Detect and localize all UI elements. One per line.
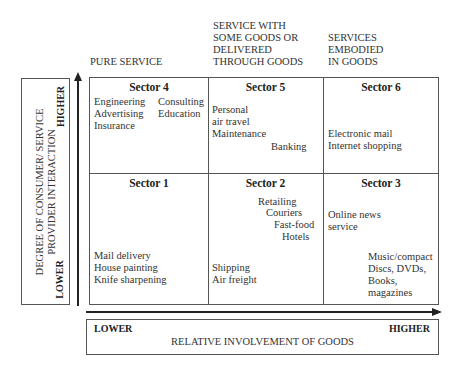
sector-title: Sector 4: [90, 81, 208, 93]
sector-5: Sector 5 Personal air travel Maintenance…: [208, 78, 323, 173]
sector-item: Knife sharpening: [94, 274, 167, 286]
sector-item: Fast-food: [274, 219, 314, 231]
sector-item: Mail delivery: [94, 250, 151, 262]
y-axis-high-label: HIGHER: [55, 86, 66, 127]
header-line: THROUGH GOODS: [213, 56, 303, 68]
column-header-pure-service: PURE SERVICE: [90, 56, 162, 68]
sector-item: Couriers: [266, 207, 302, 219]
sector-item: Internet shopping: [328, 140, 402, 152]
sector-item: magazines: [368, 287, 412, 299]
x-axis-high-label: HIGHER: [389, 323, 430, 334]
header-line: EMBODIED: [328, 44, 383, 56]
y-axis-label-box: DEGREE OF CONSUMER/ SERVICE PROVIDER INT…: [21, 78, 70, 305]
x-axis-label-box: LOWER HIGHER RELATIVE INVOLVEMENT OF GOO…: [86, 319, 439, 355]
sector-item: Banking: [271, 141, 307, 153]
sector-item: service: [328, 221, 358, 233]
sector-2: Sector 2 Retailing Couriers Fast-food Ho…: [208, 174, 323, 305]
sector-item: Electronic mail: [328, 128, 392, 140]
sector-title: Sector 2: [208, 177, 323, 189]
sector-item: Shipping: [212, 262, 250, 274]
sector-title: Sector 6: [323, 81, 439, 93]
sector-item: Air freight: [212, 274, 257, 286]
sector-grid: Sector 4 Engineering Advertising Insuran…: [89, 77, 439, 305]
header-line: IN GOODS: [328, 56, 383, 68]
vertical-arrow-icon: [72, 72, 84, 308]
header-line: SERVICE WITH: [213, 20, 303, 32]
sector-item: Engineering: [94, 96, 145, 108]
sector-item: Personal: [212, 104, 248, 116]
sector-1: Sector 1 Mail delivery House painting Kn…: [90, 174, 208, 305]
sector-item: air travel: [212, 116, 250, 128]
sector-item: Consulting: [158, 96, 204, 108]
y-axis-label-line: DEGREE OF CONSUMER/ SERVICE: [34, 82, 46, 302]
sector-item: Online news: [328, 209, 381, 221]
sector-item: Maintenance: [212, 128, 266, 140]
x-axis-low-label: LOWER: [94, 323, 132, 334]
sector-title: Sector 5: [208, 81, 323, 93]
column-header-service-with-goods: SERVICE WITH SOME GOODS OR DELIVERED THR…: [213, 20, 303, 68]
sector-3: Sector 3 Online news service Music/compa…: [323, 174, 439, 305]
sector-title: Sector 3: [323, 177, 439, 189]
sector-item: House painting: [94, 262, 158, 274]
y-axis-low-label: LOWER: [54, 260, 65, 298]
sector-item: Music/compact: [368, 251, 433, 263]
column-header-embodied-in-goods: SERVICES EMBODIED IN GOODS: [328, 32, 383, 68]
sector-item: Books,: [368, 275, 397, 287]
sector-item: Education: [158, 108, 201, 120]
sector-item: Discs, DVDs,: [368, 263, 426, 275]
horizontal-arrow-icon: [85, 307, 443, 317]
header-line: DELIVERED: [213, 44, 303, 56]
header-line: SERVICES: [328, 32, 383, 44]
header-line: PURE SERVICE: [90, 56, 162, 68]
sector-4: Sector 4 Engineering Advertising Insuran…: [90, 78, 208, 173]
header-line: SOME GOODS OR: [213, 32, 303, 44]
sector-item: Insurance: [94, 120, 135, 132]
sector-6: Sector 6 Electronic mail Internet shoppi…: [323, 78, 439, 173]
x-axis-label: RELATIVE INVOLVEMENT OF GOODS: [87, 336, 438, 347]
sector-item: Advertising: [94, 108, 144, 120]
sector-item: Hotels: [282, 231, 309, 243]
sector-title: Sector 1: [90, 177, 208, 189]
